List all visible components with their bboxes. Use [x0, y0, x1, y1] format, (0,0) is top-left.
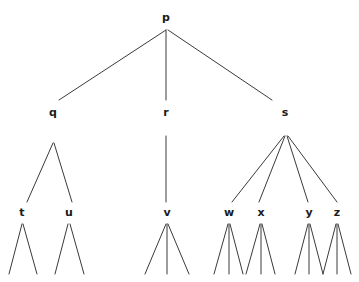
tree-edge-x-leaf-x3 — [262, 224, 275, 274]
tree-edge-s-z — [288, 136, 337, 202]
tree-edge-v-leaf-v1 — [145, 224, 166, 274]
tree-edge-y-leaf-y3 — [310, 224, 323, 274]
tree-edge-t-leaf-t2 — [23, 224, 37, 274]
tree-edge-q-u — [54, 143, 72, 202]
tree-edge-u-leaf-u1 — [55, 224, 68, 274]
tree-edge-v-leaf-v3 — [168, 224, 189, 274]
tree-edge-u-leaf-u2 — [70, 224, 84, 274]
tree-edge-w-leaf-w1 — [214, 224, 228, 274]
tree-node-u: u — [65, 207, 73, 218]
tree-diagram: pqrstuvwxyz — [0, 0, 359, 282]
tree-node-r: r — [163, 107, 168, 118]
tree-node-p: p — [162, 12, 170, 23]
tree-node-y: y — [305, 207, 312, 218]
tree-edge-s-w — [232, 136, 284, 202]
tree-node-x: x — [257, 207, 264, 218]
tree-edge-y-leaf-y1 — [295, 224, 308, 274]
tree-edge-x-leaf-x1 — [246, 224, 260, 274]
tree-node-v: v — [163, 207, 170, 218]
tree-edge-z-leaf-z3 — [338, 224, 351, 274]
tree-edge-q-t — [27, 143, 53, 202]
tree-node-t: t — [19, 207, 24, 218]
tree-edge-z-leaf-z1 — [323, 224, 336, 274]
tree-edge-t-leaf-t1 — [9, 224, 22, 274]
tree-node-w: w — [224, 207, 234, 218]
tree-node-s: s — [282, 107, 289, 118]
tree-node-q: q — [49, 107, 57, 118]
tree-edge-p-q — [59, 30, 166, 100]
tree-node-z: z — [334, 207, 340, 218]
tree-edge-w-leaf-w3 — [230, 224, 243, 274]
tree-edge-p-s — [168, 30, 272, 100]
edge-group — [9, 30, 351, 274]
tree-edges-layer — [0, 0, 359, 282]
tree-edge-s-x — [259, 136, 285, 202]
tree-edge-s-y — [287, 136, 308, 202]
